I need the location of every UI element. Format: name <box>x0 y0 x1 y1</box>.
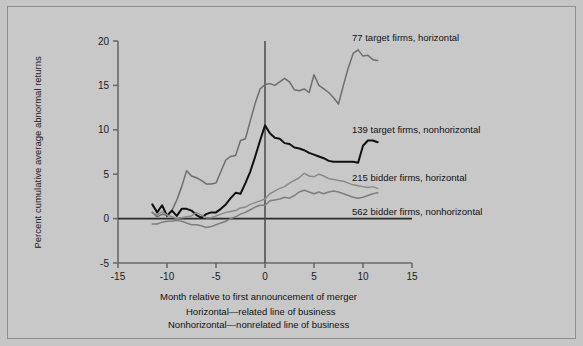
leader-bidder-nonhorizontal <box>336 207 349 212</box>
caption-horizontal: Horizontal—related line of business <box>186 306 335 317</box>
y-tick-label-20: 20 <box>98 36 110 47</box>
x-tick-label--5: -5 <box>212 271 221 282</box>
y-tick-label-10: 10 <box>98 124 110 135</box>
x-tick-label-15: 15 <box>406 271 418 282</box>
series-label-bidder-horizontal: 215 bidder firms, horizontal <box>352 172 467 183</box>
y-tick-label-15: 15 <box>98 80 110 91</box>
y-tick-label--5: -5 <box>100 258 109 269</box>
x-tick-label-0: 0 <box>262 271 268 282</box>
x-tick-label--10: -10 <box>160 271 175 282</box>
leader-target-nonhorizontal <box>330 130 349 139</box>
y-axis-title: Percent cumulative average abnormal retu… <box>32 59 43 249</box>
series-label-target-nonhorizontal: 139 target firms, nonhorizontal <box>352 124 480 135</box>
x-tick-label--15: -15 <box>111 271 126 282</box>
x-axis-title: Month relative to first announcement of … <box>160 291 357 302</box>
caption-nonhorizontal: Nonhorizontal—nonrelated line of busines… <box>168 319 349 330</box>
x-tick-label-5: 5 <box>311 271 317 282</box>
leader-target-horizontal <box>318 38 349 48</box>
x-tick-label-10: 10 <box>357 271 369 282</box>
y-tick-label-0: 0 <box>103 213 109 224</box>
y-tick-label-5: 5 <box>103 169 109 180</box>
series-label-bidder-nonhorizontal: 562 bidder firms, nonhorizontal <box>352 206 482 217</box>
chart-figure: -505101520-15-10-5051015 Percent cumulat… <box>0 0 583 346</box>
series-label-target-horizontal: 77 target firms, horizontal <box>352 32 459 43</box>
